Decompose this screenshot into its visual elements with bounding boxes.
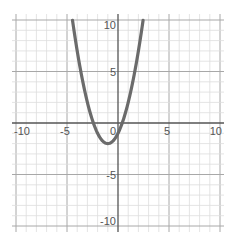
y-tick-label: -10: [100, 215, 116, 227]
origin-label: 0: [110, 125, 116, 137]
y-tick-label: -5: [106, 169, 116, 181]
axes: [12, 14, 224, 232]
y-tick-label: 5: [110, 66, 116, 78]
graph-plot: -10-5510-10-55100: [0, 0, 229, 236]
y-tick-label: 10: [104, 19, 116, 31]
x-tick-label: -10: [14, 125, 30, 137]
x-tick-label: 10: [210, 125, 222, 137]
x-tick-label: -5: [60, 125, 70, 137]
x-tick-label: 5: [164, 125, 170, 137]
